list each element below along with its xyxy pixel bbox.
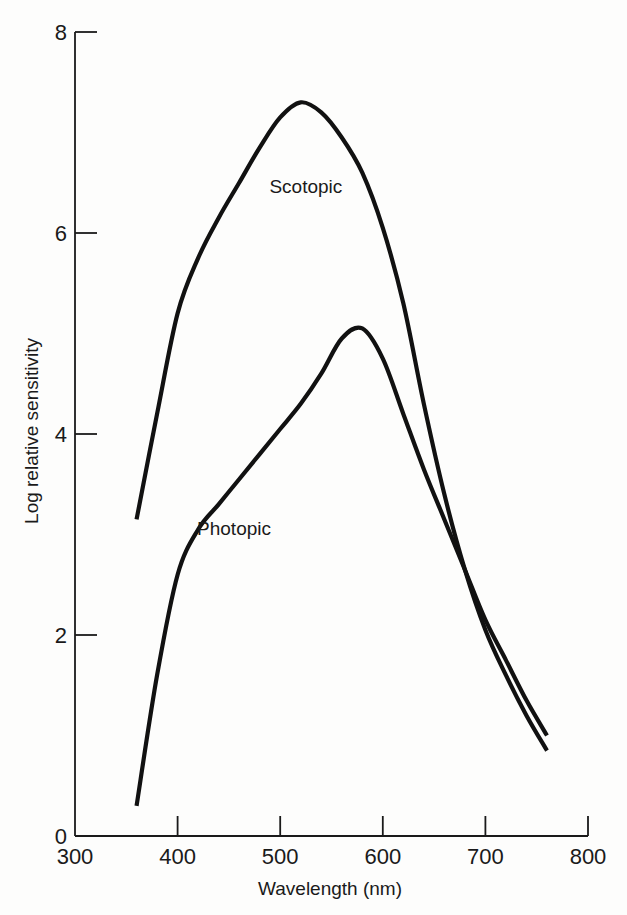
photopic-curve	[137, 328, 547, 806]
x-tick-label: 800	[570, 844, 607, 869]
y-tick-label: 2	[55, 623, 67, 648]
x-tick-label: 400	[159, 844, 196, 869]
y-tick-label: 6	[55, 221, 67, 246]
scotopic-label: Scotopic	[269, 176, 342, 197]
y-tick-label: 4	[55, 422, 67, 447]
x-tick-label: 600	[364, 844, 401, 869]
x-axis: 300400500600700800	[57, 816, 607, 869]
scotopic-curve	[137, 102, 547, 750]
sensitivity-chart: 02468 300400500600700800 ScotopicPhotopi…	[0, 0, 627, 915]
x-tick-label: 700	[467, 844, 504, 869]
y-axis-title: Log relative sensitivity	[21, 338, 42, 524]
x-axis-title: Wavelength (nm)	[258, 878, 402, 899]
y-tick-label: 8	[55, 20, 67, 45]
x-tick-label: 500	[262, 844, 299, 869]
photopic-label: Photopic	[197, 518, 271, 539]
plot-curves: ScotopicPhotopic	[137, 102, 547, 806]
y-axis: 02468	[55, 20, 97, 849]
x-tick-label: 300	[57, 844, 94, 869]
